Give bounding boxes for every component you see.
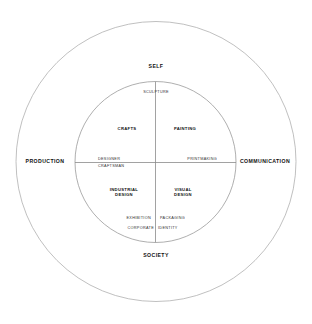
boundary-label-exhibition: EXHIBITION: [126, 216, 151, 220]
concentric-diagram: SELF SOCIETY PRODUCTION COMMUNICATION CR…: [0, 0, 312, 324]
boundary-label-packaging: PACKAGING: [160, 216, 185, 220]
axis-label-society: SOCIETY: [143, 253, 169, 259]
boundary-label-designer: DESIGNER: [98, 156, 120, 160]
quadrant-visual-design: VISUAL DESIGN: [174, 188, 192, 198]
quadrant-industrial-design: INDUSTRIAL DESIGN: [110, 188, 138, 198]
boundary-label-craftsman: CRAFTSMAN: [98, 164, 124, 168]
quadrant-painting: PAINTING: [174, 127, 196, 132]
axis-label-production: PRODUCTION: [26, 159, 65, 165]
axis-label-communication: COMMUNICATION: [240, 159, 290, 165]
boundary-label-corporate: CORPORATE: [128, 226, 154, 230]
boundary-label-sculpture: SCULPTURE: [143, 90, 169, 94]
boundary-label-identity: IDENTITY: [158, 226, 178, 230]
boundary-label-printmaking: PRINTMAKING: [187, 156, 217, 160]
quadrant-industrial-line2: DESIGN: [110, 193, 138, 198]
quadrant-visual-line2: DESIGN: [174, 193, 192, 198]
axis-label-self: SELF: [149, 64, 164, 70]
quadrant-crafts: CRAFTS: [118, 127, 137, 132]
